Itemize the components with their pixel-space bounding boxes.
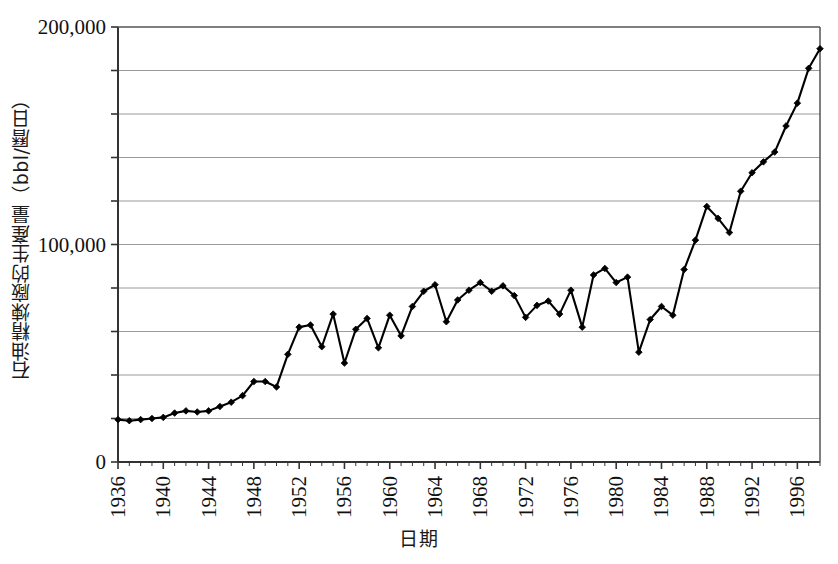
x-tick-label: 1956	[332, 476, 356, 518]
x-tick-label: 1992	[740, 476, 764, 518]
data-point-marker	[273, 384, 280, 391]
data-point-marker	[579, 324, 586, 331]
x-tick-label: 1976	[559, 476, 583, 518]
data-point-marker	[217, 403, 224, 410]
data-point-marker	[285, 351, 292, 358]
y-tick-marks-group	[111, 27, 118, 462]
data-point-marker	[341, 360, 348, 367]
x-tick-label: 1940	[151, 476, 175, 518]
data-point-marker	[194, 409, 201, 416]
x-axis-title: 日期	[0, 524, 838, 551]
x-tick-label: 1988	[695, 476, 719, 518]
line-chart-svg: 0100,000200,000 193619401944194819521956…	[0, 0, 838, 564]
series-markers-group	[115, 45, 824, 424]
data-point-marker	[183, 408, 190, 415]
data-point-marker	[330, 311, 337, 318]
data-point-marker	[205, 408, 212, 415]
data-point-marker	[149, 415, 156, 422]
series-line	[118, 49, 820, 421]
data-series-group	[115, 45, 824, 424]
data-point-marker	[160, 414, 167, 421]
data-point-marker	[137, 416, 144, 423]
data-point-marker	[262, 378, 269, 385]
x-tick-labels-group: 1936194019441948195219561960196419681972…	[106, 476, 809, 519]
x-tick-label: 1944	[197, 476, 221, 519]
y-tick-label: 0	[96, 450, 107, 474]
data-point-marker	[171, 410, 178, 417]
x-tick-marks-group	[118, 462, 820, 469]
y-tick-label: 100,000	[38, 233, 106, 257]
data-point-marker	[692, 237, 699, 244]
data-point-marker	[624, 274, 631, 281]
x-tick-label: 1984	[649, 476, 673, 519]
x-tick-label: 1960	[378, 476, 402, 518]
x-tick-label: 1980	[604, 476, 628, 518]
gridlines-group	[118, 71, 820, 419]
data-point-marker	[636, 349, 643, 356]
x-tick-label: 1952	[287, 476, 311, 518]
data-point-marker	[375, 345, 382, 352]
chart-figure: 石油精煉廠的生產量（bbl/曆日） 0100,000200,000 193619…	[0, 0, 838, 564]
data-point-marker	[681, 266, 688, 273]
x-tick-label: 1936	[106, 476, 130, 518]
x-tick-label: 1968	[468, 476, 492, 518]
y-tick-label: 200,000	[38, 15, 106, 39]
x-tick-label: 1972	[514, 476, 538, 518]
data-point-marker	[296, 324, 303, 331]
y-tick-labels-group: 0100,000200,000	[38, 15, 106, 474]
x-tick-label: 1964	[423, 476, 447, 519]
data-point-marker	[115, 416, 122, 423]
x-tick-label: 1996	[785, 476, 809, 518]
x-tick-label: 1948	[242, 476, 266, 518]
